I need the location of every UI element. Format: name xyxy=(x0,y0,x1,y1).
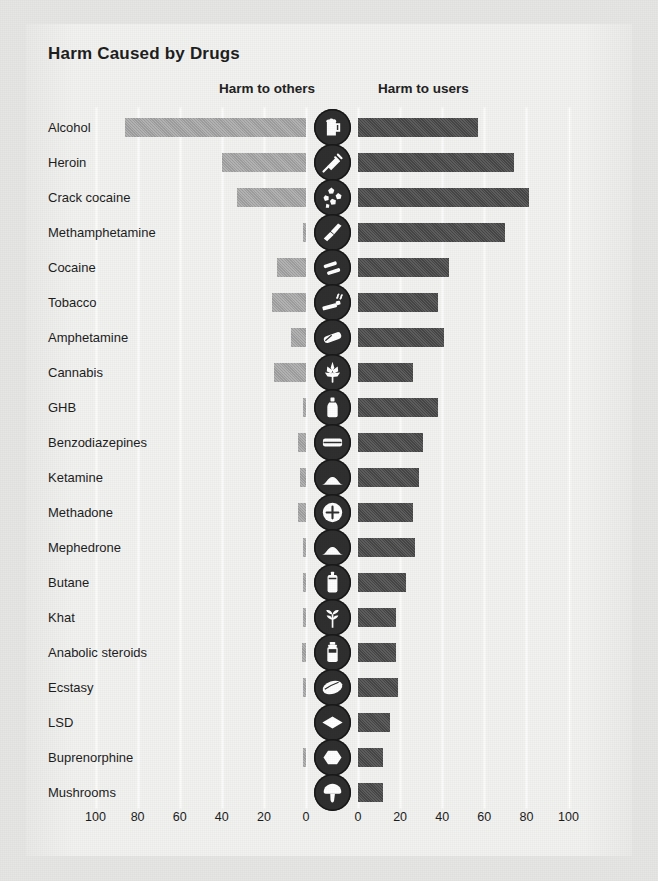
chart-row: Alcohol xyxy=(26,110,632,145)
cannabis-leaf-icon xyxy=(314,354,351,391)
scanned-page-background: Harm Caused by Drugs Harm to others Harm… xyxy=(0,0,658,881)
bar-harm-to-others xyxy=(303,678,306,697)
chart-row: Methadone xyxy=(26,495,632,530)
row-label-ghb: GHB xyxy=(48,390,76,425)
chart-row: Buprenorphine xyxy=(26,740,632,775)
bar-harm-to-others xyxy=(303,573,306,592)
bar-harm-to-users xyxy=(358,503,413,522)
bar-harm-to-users xyxy=(358,118,478,137)
axis-tick-right-60: 60 xyxy=(477,810,491,824)
lsd-blotter-icon xyxy=(314,704,351,741)
butane-canister-icon xyxy=(314,564,351,601)
cocaine-lines-icon xyxy=(314,249,351,286)
axis-tick-left-80: 80 xyxy=(131,810,145,824)
row-label-cannabis: Cannabis xyxy=(48,355,103,390)
bar-harm-to-others xyxy=(277,258,306,277)
chart-row: Mushrooms xyxy=(26,775,632,810)
row-label-methamphetamine: Methamphetamine xyxy=(48,215,156,250)
chart-row: Ketamine xyxy=(26,460,632,495)
bar-harm-to-others xyxy=(303,398,306,417)
bar-harm-to-users xyxy=(358,643,396,662)
row-label-crack-cocaine: Crack cocaine xyxy=(48,180,130,215)
chart-row: Crack cocaine xyxy=(26,180,632,215)
axis-tick-right-80: 80 xyxy=(519,810,533,824)
axis-tick-left-40: 40 xyxy=(215,810,229,824)
bar-harm-to-users xyxy=(358,573,406,592)
row-label-methadone: Methadone xyxy=(48,495,113,530)
axis-tick-right-20: 20 xyxy=(393,810,407,824)
chart-row: Cannabis xyxy=(26,355,632,390)
ghb-bottle-icon xyxy=(314,389,351,426)
chart-row: GHB xyxy=(26,390,632,425)
bar-harm-to-users xyxy=(358,153,514,172)
bar-harm-to-users xyxy=(358,538,415,557)
row-label-tobacco: Tobacco xyxy=(48,285,96,320)
row-label-mushrooms: Mushrooms xyxy=(48,775,116,810)
row-label-ketamine: Ketamine xyxy=(48,460,103,495)
bar-harm-to-others xyxy=(303,538,306,557)
bar-harm-to-users xyxy=(358,293,438,312)
powder-mound-icon xyxy=(314,529,351,566)
tablet-icon xyxy=(314,424,351,461)
bar-harm-to-others xyxy=(302,643,306,662)
chart-panel: Harm Caused by Drugs Harm to others Harm… xyxy=(26,24,632,856)
bar-harm-to-users xyxy=(358,468,419,487)
bar-harm-to-others xyxy=(125,118,306,137)
legend-harm-to-users: Harm to users xyxy=(378,81,469,96)
chart-row: Khat xyxy=(26,600,632,635)
bar-harm-to-others xyxy=(274,363,306,382)
row-label-lsd: LSD xyxy=(48,705,73,740)
plot-area: AlcoholHeroinCrack cocaineMethamphetamin… xyxy=(26,108,632,808)
bar-harm-to-others xyxy=(291,328,306,347)
bar-harm-to-users xyxy=(358,748,383,767)
chart-row: Mephedrone xyxy=(26,530,632,565)
bar-harm-to-users xyxy=(358,328,444,347)
chart-row: Ecstasy xyxy=(26,670,632,705)
beer-mug-icon xyxy=(314,109,351,146)
chart-row: Butane xyxy=(26,565,632,600)
row-label-butane: Butane xyxy=(48,565,89,600)
syringe-icon xyxy=(314,144,351,181)
row-label-mephedrone: Mephedrone xyxy=(48,530,121,565)
bar-harm-to-others xyxy=(272,293,306,312)
chart-title: Harm Caused by Drugs xyxy=(48,44,240,64)
bar-harm-to-users xyxy=(358,678,398,697)
axis-tick-left-0: 0 xyxy=(303,810,310,824)
chart-row: Methamphetamine xyxy=(26,215,632,250)
chart-row: LSD xyxy=(26,705,632,740)
khat-leaves-icon xyxy=(314,599,351,636)
row-label-khat: Khat xyxy=(48,600,75,635)
axis-tick-right-100: 100 xyxy=(558,810,579,824)
row-label-ecstasy: Ecstasy xyxy=(48,670,94,705)
chart-row: Tobacco xyxy=(26,285,632,320)
row-label-alcohol: Alcohol xyxy=(48,110,91,145)
axis-tick-right-40: 40 xyxy=(435,810,449,824)
bar-harm-to-others xyxy=(303,608,306,627)
ecstasy-pill-icon xyxy=(314,669,351,706)
bar-harm-to-users xyxy=(358,608,396,627)
axis-tick-left-100: 100 xyxy=(85,810,106,824)
bar-harm-to-others xyxy=(298,433,306,452)
powder-mound-icon xyxy=(314,459,351,496)
bar-harm-to-users xyxy=(358,713,390,732)
row-label-benzodiazepines: Benzodiazepines xyxy=(48,425,147,460)
bar-harm-to-users xyxy=(358,188,529,207)
bar-harm-to-users xyxy=(358,363,413,382)
chart-row: Cocaine xyxy=(26,250,632,285)
bar-harm-to-others xyxy=(298,503,306,522)
chart-row: Amphetamine xyxy=(26,320,632,355)
bar-harm-to-users xyxy=(358,433,423,452)
bar-harm-to-others xyxy=(303,748,306,767)
meth-crystal-icon xyxy=(314,214,351,251)
axis-tick-right-0: 0 xyxy=(355,810,362,824)
row-label-cocaine: Cocaine xyxy=(48,250,96,285)
row-label-heroin: Heroin xyxy=(48,145,86,180)
bar-harm-to-users xyxy=(358,258,449,277)
bar-harm-to-others xyxy=(300,468,306,487)
row-label-anabolic-steroids: Anabolic steroids xyxy=(48,635,147,670)
cigarette-icon xyxy=(314,284,351,321)
row-label-amphetamine: Amphetamine xyxy=(48,320,128,355)
crack-rocks-icon xyxy=(314,179,351,216)
cross-pill-icon xyxy=(314,494,351,531)
chart-row: Heroin xyxy=(26,145,632,180)
